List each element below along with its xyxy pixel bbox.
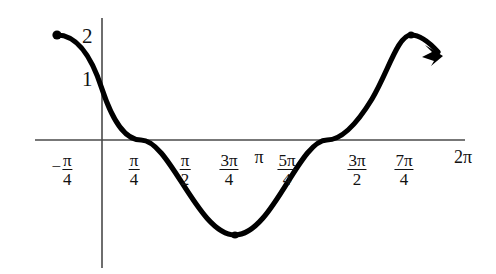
x-tick-neg-pi-over-4: −π4 [51,152,72,189]
x-tick-pi: π [254,152,263,171]
fraction-denominator: 4 [277,170,296,188]
x-tick-two-pi: 2π [454,152,472,171]
fraction: 5π4 [277,152,296,189]
x-tick-pi-over-2: π2 [180,152,191,189]
x-tick-three-pi-over-2: 3π2 [347,152,366,189]
fraction-denominator: 4 [62,170,73,188]
y-label-1: 1 [82,69,93,90]
fraction-denominator: 4 [394,170,413,188]
fraction: 3π4 [219,152,238,189]
left-endpoint-dot [52,30,61,39]
fraction: π4 [62,152,73,189]
y-label-2-text: 2 [82,24,93,48]
x-tick-seven-pi-over-4: 7π4 [394,152,413,189]
fraction-numerator: π [62,152,73,170]
fraction: π2 [180,152,191,189]
fraction-numerator: 3π [219,152,238,170]
fraction-denominator: 4 [219,170,238,188]
fraction-denominator: 4 [129,170,140,188]
x-tick-pi-text: π [254,148,263,166]
x-tick-pi-over-4: π4 [129,152,140,189]
fraction: π4 [129,152,140,189]
fraction-numerator: 7π [394,152,413,170]
fraction: 3π2 [347,152,366,189]
cosine-curve [57,35,438,235]
x-tick-two-pi-text: 2π [454,148,472,166]
x-tick-five-pi-over-4: 5π4 [277,152,296,189]
maximum-point-dot [407,31,414,38]
fraction-denominator: 2 [180,170,191,188]
fraction-numerator: 5π [277,152,296,170]
minimum-point-dot [231,231,238,238]
y-label-1-text: 1 [82,67,93,91]
fraction-denominator: 2 [347,170,366,188]
x-tick-three-pi-over-4: 3π4 [219,152,238,189]
minus-sign: − [51,158,62,175]
y-label-2: 2 [82,26,93,47]
fraction: 7π4 [394,152,413,189]
plot-canvas [0,0,496,274]
fraction-numerator: 3π [347,152,366,170]
fraction-numerator: π [180,152,191,170]
graph-figure: 2 1 −π4 π4 π2 3π4 π 5π4 3π2 7π4 2π [0,0,496,274]
fraction-numerator: π [129,152,140,170]
